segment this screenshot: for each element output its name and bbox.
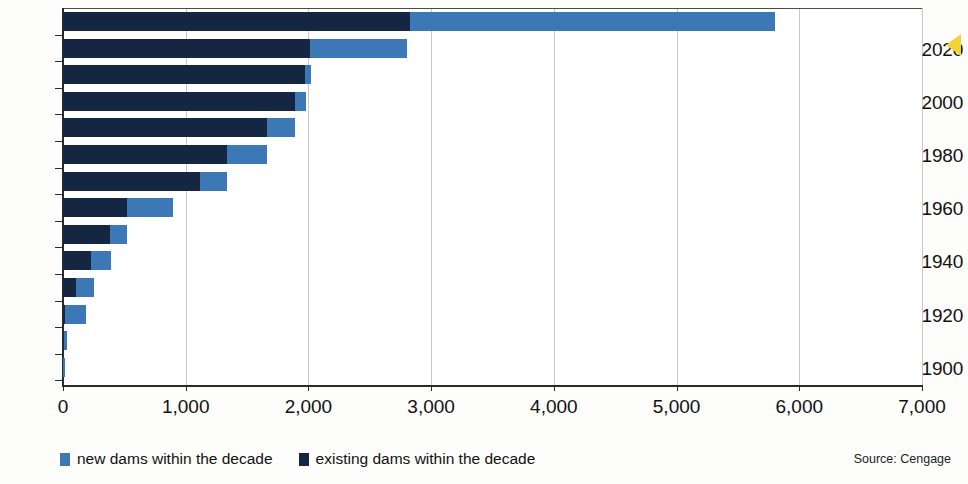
bar-row — [63, 39, 922, 58]
legend-label: existing dams within the decade — [316, 450, 536, 468]
gridline — [922, 8, 923, 385]
bar-row — [63, 92, 922, 111]
bar-segment-existing-dams — [63, 145, 227, 164]
bar-row — [63, 331, 922, 350]
bar-segment-new-dams — [91, 251, 111, 270]
bar-row — [63, 198, 922, 217]
plot-top-border — [63, 8, 922, 9]
x-axis-label: 7,000 — [862, 396, 968, 418]
legend-swatch-icon — [60, 453, 70, 466]
bar-segment-existing-dams — [63, 251, 91, 270]
bar-row — [63, 358, 922, 377]
x-axis-line — [62, 385, 923, 387]
bar-segment-new-dams — [63, 358, 65, 377]
legend-swatch-icon — [299, 453, 309, 466]
bar-row — [63, 118, 922, 137]
y-axis-label: 1960 — [911, 199, 963, 218]
x-axis-label: 0 — [3, 396, 123, 418]
bar-segment-existing-dams — [63, 198, 127, 217]
bar-segment-existing-dams — [63, 225, 110, 244]
bar-segment-new-dams — [64, 331, 66, 350]
bar-segment-new-dams — [200, 172, 226, 191]
bar-segment-existing-dams — [63, 278, 76, 297]
bar-segment-new-dams — [295, 92, 306, 111]
source-note: Source: Cengage — [854, 452, 951, 466]
bar-segment-existing-dams — [63, 65, 305, 84]
bar-segment-new-dams — [410, 12, 774, 31]
y-axis-label: 1940 — [911, 252, 963, 271]
bar-segment-new-dams — [305, 65, 312, 84]
y-axis-label: 1900 — [911, 359, 963, 378]
legend-label: new dams within the decade — [77, 450, 273, 468]
y-axis-label: 2000 — [911, 93, 963, 112]
bar-segment-existing-dams — [63, 118, 267, 137]
x-axis-label: 1,000 — [126, 396, 246, 418]
legend-item-existing-dams[interactable]: existing dams within the decade — [299, 450, 536, 468]
bar-row — [63, 172, 922, 191]
bar-segment-existing-dams — [63, 39, 310, 58]
y-axis-label: 1920 — [911, 306, 963, 325]
bar-segment-new-dams — [65, 305, 85, 324]
arrow-left-marker-icon — [946, 34, 961, 56]
bar-segment-new-dams — [127, 198, 174, 217]
bar-row — [63, 225, 922, 244]
legend-item-new-dams[interactable]: new dams within the decade — [60, 450, 273, 468]
x-axis-label: 3,000 — [371, 396, 491, 418]
bar-segment-new-dams — [227, 145, 266, 164]
bar-segment-existing-dams — [63, 92, 295, 111]
bar-segment-existing-dams — [63, 172, 200, 191]
bar-row — [63, 278, 922, 297]
y-axis-label: 1980 — [911, 146, 963, 165]
bar-segment-new-dams — [310, 39, 407, 58]
bar-row — [63, 145, 922, 164]
bar-row — [63, 12, 922, 31]
bar-row — [63, 251, 922, 270]
x-axis-label: 6,000 — [739, 396, 859, 418]
bar-row — [63, 305, 922, 324]
chart-legend: new dams within the decadeexisting dams … — [60, 450, 535, 468]
bar-segment-new-dams — [267, 118, 295, 137]
x-axis-label: 5,000 — [617, 396, 737, 418]
bar-segment-new-dams — [110, 225, 128, 244]
bar-segment-new-dams — [76, 278, 93, 297]
x-axis-label: 2,000 — [248, 396, 368, 418]
bar-row — [63, 65, 922, 84]
bar-segment-existing-dams — [63, 12, 410, 31]
x-axis-label: 4,000 — [494, 396, 614, 418]
